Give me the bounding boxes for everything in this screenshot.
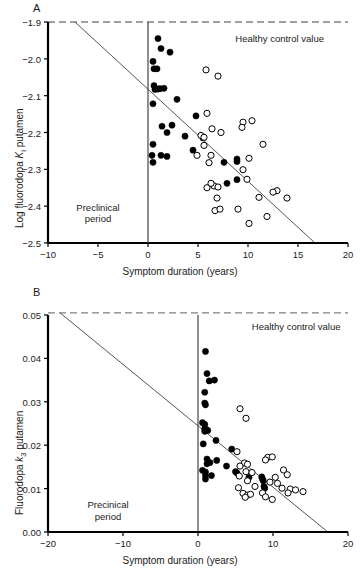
- series-filled: [199, 348, 267, 491]
- data-point: [272, 474, 278, 480]
- data-point: [279, 485, 285, 491]
- x-tick-label: −20: [40, 538, 56, 549]
- data-point: [204, 110, 210, 116]
- data-point: [208, 180, 214, 186]
- data-point: [260, 141, 266, 147]
- data-point: [284, 195, 290, 201]
- data-point: [213, 437, 219, 443]
- data-point: [215, 184, 221, 190]
- panel-a: A Log fluorodopa Ki putamen Symptom dura…: [0, 0, 360, 283]
- data-point: [169, 122, 175, 128]
- data-point: [240, 167, 246, 173]
- y-tick-label: −2.5: [22, 238, 41, 249]
- data-point: [223, 463, 229, 469]
- data-point: [159, 123, 165, 129]
- data-point: [244, 461, 250, 467]
- data-point: [244, 176, 250, 182]
- y-tick-label: −1.9: [22, 17, 41, 28]
- data-point: [203, 67, 209, 73]
- data-point: [243, 415, 249, 421]
- data-point: [224, 180, 230, 186]
- data-point: [208, 152, 214, 158]
- y-tick-label: 0.04: [23, 353, 42, 364]
- data-point: [270, 189, 276, 195]
- x-tick-label: −10: [40, 249, 56, 260]
- data-point: [242, 494, 248, 500]
- data-point: [284, 472, 290, 478]
- data-point: [262, 457, 268, 463]
- data-point: [155, 35, 161, 41]
- y-tick-label: 0.02: [23, 440, 42, 451]
- y-tick-label: 0.03: [23, 396, 42, 407]
- data-point: [260, 478, 266, 484]
- series-open: [234, 406, 306, 503]
- data-point: [217, 206, 223, 212]
- data-point: [249, 118, 255, 124]
- data-point: [150, 101, 156, 107]
- data-point: [150, 58, 156, 64]
- y-tick-label: 0.00: [23, 527, 42, 538]
- y-tick-label: 0.01: [23, 483, 42, 494]
- data-point: [202, 476, 208, 482]
- data-point: [194, 152, 200, 158]
- data-point: [202, 348, 208, 354]
- data-point: [246, 220, 252, 226]
- data-point: [237, 406, 243, 412]
- data-point: [150, 159, 156, 165]
- data-point: [236, 473, 242, 479]
- data-point: [285, 490, 291, 496]
- data-point: [202, 389, 208, 395]
- healthy-control-label: Healthy control value: [235, 33, 324, 45]
- data-point: [264, 213, 270, 219]
- data-point: [235, 206, 241, 212]
- data-point: [262, 494, 268, 500]
- data-point: [206, 378, 212, 384]
- y-tick-label: −2.1: [22, 90, 41, 101]
- data-point: [243, 469, 249, 475]
- x-tick-label: 0: [195, 538, 200, 549]
- data-point: [249, 469, 255, 475]
- data-point: [149, 152, 155, 158]
- data-point: [246, 155, 252, 161]
- data-point: [201, 134, 207, 140]
- data-point: [237, 463, 243, 469]
- data-point: [215, 73, 221, 79]
- x-tick-label: 15: [293, 249, 304, 260]
- y-tick-label: −2.3: [22, 164, 41, 175]
- data-point: [150, 141, 156, 147]
- data-point: [252, 483, 258, 489]
- data-point: [221, 159, 227, 165]
- preclinical-label-line2: period: [95, 511, 121, 523]
- data-point: [204, 370, 210, 376]
- x-tick-label: −5: [93, 249, 104, 260]
- data-point: [167, 49, 173, 55]
- data-point: [204, 461, 210, 467]
- x-tick-label: 0: [145, 249, 150, 260]
- data-point: [193, 113, 199, 119]
- panel-b: B Fluorodopa k3 putamen Symptom duration…: [0, 283, 360, 573]
- x-tick-label: 10: [268, 538, 279, 549]
- data-point: [269, 454, 275, 460]
- data-point: [218, 129, 224, 135]
- data-point: [202, 428, 208, 434]
- data-point: [209, 126, 215, 132]
- panel-b-x-axis-title: Symptom duration (years): [0, 555, 360, 566]
- data-point: [200, 441, 206, 447]
- data-point: [235, 485, 241, 491]
- x-tick-label: −10: [115, 538, 131, 549]
- data-point: [292, 487, 298, 493]
- data-point: [256, 194, 262, 200]
- y-tick-label: −2.4: [22, 201, 41, 212]
- data-point: [174, 96, 180, 102]
- data-point: [239, 124, 245, 130]
- data-point: [234, 177, 240, 183]
- panel-a-x-axis-title: Symptom duration (years): [0, 266, 360, 277]
- data-point: [300, 489, 306, 495]
- data-point: [201, 142, 207, 148]
- data-point: [208, 472, 214, 478]
- x-tick-label: 20: [343, 538, 354, 549]
- y-tick-label: −2.0: [22, 53, 41, 64]
- x-tick-label: 20: [343, 249, 354, 260]
- y-tick-label: 0.05: [23, 310, 42, 321]
- data-point: [161, 85, 167, 91]
